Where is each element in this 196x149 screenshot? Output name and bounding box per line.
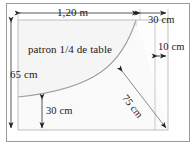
- pattern-diagram: 1,20 m 30 cm 10 cm 65 cm patron 1/4 de t…: [0, 0, 196, 149]
- right-segment-label: 10 cm: [158, 42, 184, 53]
- bottom-segment-label: 30 cm: [46, 106, 72, 117]
- top-right-segment-label: 30 cm: [148, 15, 174, 26]
- left-height-label: 65 cm: [10, 69, 38, 80]
- top-width-label: 1,20 m: [57, 7, 88, 18]
- pattern-title-label: patron 1/4 de table: [28, 44, 112, 55]
